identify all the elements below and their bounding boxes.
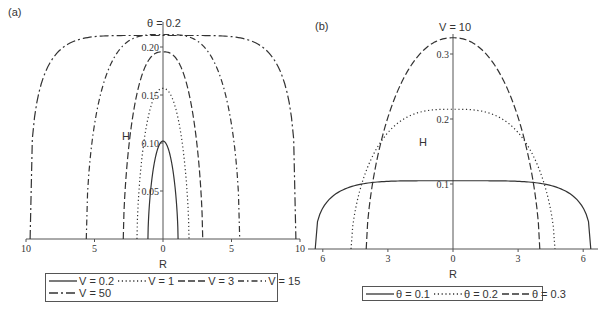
x-tick-label: 0 — [161, 243, 166, 254]
legend-label: V = 50 — [79, 287, 111, 299]
legend-b-row: θ = 0.1θ = 0.2θ = 0.3 — [366, 288, 539, 300]
panel-a-xlabel: R — [159, 258, 167, 270]
legend-b: θ = 0.1θ = 0.2θ = 0.3 — [362, 286, 543, 301]
x-tick-label: 6 — [320, 253, 325, 264]
x-tick-label: 5 — [92, 243, 97, 254]
legend-swatch-icon — [366, 290, 394, 298]
y-tick-label: 0.2 — [437, 114, 450, 125]
legend-item: V = 50 — [49, 287, 111, 299]
y-tick-label: 0.15 — [142, 90, 160, 101]
panel-b-xlabel: R — [449, 268, 457, 280]
panel-a-label: (a) — [8, 6, 21, 18]
legend-a-row: V = 0.2V = 1V = 3V = 15 — [49, 275, 274, 287]
legend-label: V = 0.2 — [79, 275, 114, 287]
legend-label: V = 1 — [148, 275, 174, 287]
plot-canvas: 10505100.050.100.150.20630360.10.20.3 — [0, 0, 610, 316]
legend-a-row: V = 50 — [49, 287, 274, 299]
legend-item: θ = 0.3 — [502, 288, 566, 300]
legend-item: θ = 0.2 — [434, 288, 498, 300]
panel-a-title: θ = 0.2 — [147, 17, 181, 29]
x-tick-label: 10 — [295, 243, 305, 254]
x-tick-label: 3 — [516, 253, 521, 264]
panel-b-label: (b) — [315, 20, 328, 32]
legend-label: θ = 0.1 — [396, 288, 430, 300]
legend-label: θ = 0.3 — [532, 288, 566, 300]
legend-swatch-icon — [178, 277, 206, 285]
y-tick-label: 0.20 — [142, 42, 160, 53]
panel-a-ylabel: H — [122, 130, 130, 142]
legend-item: V = 3 — [178, 275, 234, 287]
legend-label: θ = 0.2 — [464, 288, 498, 300]
legend-swatch-icon — [49, 289, 77, 297]
legend-swatch-icon — [434, 290, 462, 298]
chart-panel-b: 630360.10.20.3 — [308, 34, 598, 264]
x-tick-label: 0 — [451, 253, 456, 264]
legend-swatch-icon — [118, 277, 146, 285]
panel-b-ylabel: H — [419, 136, 427, 148]
legend-item: θ = 0.1 — [366, 288, 430, 300]
y-tick-label: 0.10 — [142, 138, 160, 149]
legend-label: V = 3 — [208, 275, 234, 287]
x-tick-label: 3 — [385, 253, 390, 264]
panel-b-title: V = 10 — [439, 21, 471, 33]
y-tick-label: 0.3 — [437, 49, 450, 60]
legend-label: V = 15 — [268, 275, 300, 287]
legend-swatch-icon — [49, 277, 77, 285]
x-tick-label: 5 — [229, 243, 234, 254]
legend-swatch-icon — [238, 277, 266, 285]
figure: 10505100.050.100.150.20630360.10.20.3 (a… — [0, 0, 610, 316]
legend-item: V = 15 — [238, 275, 300, 287]
x-tick-label: 10 — [21, 243, 31, 254]
chart-panel-a: 10505100.050.100.150.20 — [21, 22, 305, 254]
legend-a: V = 0.2V = 1V = 3V = 15 V = 50 — [45, 273, 278, 302]
legend-item: V = 0.2 — [49, 275, 114, 287]
legend-swatch-icon — [502, 290, 530, 298]
legend-item: V = 1 — [118, 275, 174, 287]
x-tick-label: 6 — [581, 253, 586, 264]
